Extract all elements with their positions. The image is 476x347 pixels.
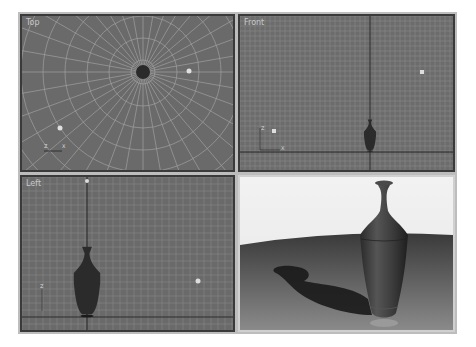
vase-base (370, 319, 398, 327)
top-view-canvas: ZX (22, 16, 233, 170)
polar-grid-spoke (22, 16, 143, 72)
light-icon (85, 179, 89, 183)
viewport-perspective[interactable] (238, 175, 455, 332)
axis-label-x: X (281, 145, 285, 151)
polar-grid-spoke (22, 16, 143, 72)
vase-top-silhouette (136, 65, 150, 79)
axis-label-x: X (62, 143, 66, 149)
polar-grid-spoke (22, 72, 143, 124)
camera-icon (196, 279, 201, 284)
light-icon (420, 70, 424, 74)
render-floor (240, 233, 453, 330)
axis-label-z: Z (261, 125, 265, 131)
vase-lip (375, 181, 393, 186)
viewport-top[interactable]: Top ZX (20, 14, 235, 172)
left-view-canvas: Z (22, 177, 233, 330)
polar-grid-spoke (22, 20, 143, 72)
polar-grid-spoke (22, 16, 143, 72)
polar-grid-spoke (22, 16, 143, 72)
vase-silhouette (364, 120, 376, 151)
viewport-label-front[interactable]: Front (244, 18, 264, 27)
polar-grid-spoke (22, 16, 143, 72)
light-icon (187, 69, 192, 74)
polar-grid-ring (43, 16, 233, 170)
viewport-label-left[interactable]: Left (26, 179, 41, 188)
viewport-front[interactable]: Front ZX (238, 14, 455, 172)
viewport-label-top[interactable]: Top (26, 18, 40, 27)
polar-grid-spoke (143, 16, 233, 72)
axis-label-z: Z (44, 143, 48, 149)
polar-grid-spoke (40, 16, 143, 72)
front-view-canvas: ZX (240, 16, 453, 170)
camera-icon (58, 126, 63, 131)
polar-grid-spoke (143, 16, 195, 72)
render-canvas (240, 177, 453, 330)
viewport-left[interactable]: Left Z (20, 175, 235, 332)
vase-base (367, 150, 373, 151)
polar-grid-spoke (91, 16, 143, 72)
vase-base (80, 315, 93, 318)
axis-label-z: Z (40, 283, 44, 289)
camera-icon (272, 129, 276, 133)
